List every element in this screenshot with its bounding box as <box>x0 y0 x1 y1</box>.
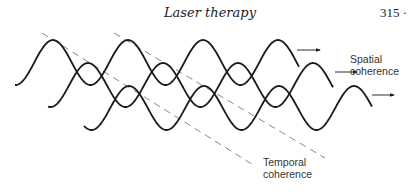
temporal-coherence-wavefronts <box>42 33 325 166</box>
spatial-label-line1: Spatial <box>350 53 382 65</box>
light-waves <box>15 40 372 130</box>
temporal-label-line2: coherence <box>263 168 312 180</box>
wavefront-dashed-line-2 <box>114 33 325 158</box>
spatial-label-line2: coherence <box>350 65 399 77</box>
wave-1 <box>15 40 299 85</box>
wave-3 <box>84 86 372 130</box>
coherence-diagram: Spatial coherence Temporal coherence <box>0 0 420 196</box>
temporal-label-line1: Temporal <box>263 156 306 168</box>
